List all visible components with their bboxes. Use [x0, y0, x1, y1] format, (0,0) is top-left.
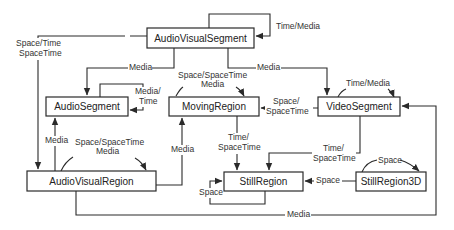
edge-label-line2: SpaceTime — [266, 106, 309, 116]
node-videosegment: VideoSegment — [318, 97, 400, 116]
node-label: MovingRegion — [182, 101, 246, 112]
edge-label-line2: Media — [96, 146, 119, 156]
node-label: AudioVisualRegion — [49, 176, 133, 187]
node-label: StillRegion3D — [361, 176, 422, 187]
edge-label: Space — [316, 175, 340, 185]
edge-label-line2: SpaceTime — [313, 153, 356, 163]
edge-label-line2: SpaceTime — [19, 48, 62, 58]
edge-label-line1: Space/ — [273, 96, 300, 106]
edge-label-line1: Space/Time — [16, 38, 61, 48]
edge-label-line2: SpaceTime — [218, 142, 261, 152]
edge-stillregion3d-to-stillregion: Space — [305, 175, 356, 186]
edge-label: Media — [287, 209, 310, 219]
edge-label-line1: Time/ — [323, 143, 345, 153]
edge-videosegment-self: Time/Media — [338, 78, 394, 97]
edge-movingregion-self: Space/SpaceTime Media — [176, 70, 247, 96]
node-label: VideoSegment — [326, 101, 392, 112]
edge-label: Space — [378, 155, 402, 165]
edge-label-line1: Media/ — [135, 86, 161, 96]
node-audiovisualregion: AudioVisualRegion — [27, 171, 156, 191]
edge-label-line2: Time — [139, 96, 158, 106]
edge-stillregion3d-self: Space — [362, 155, 419, 172]
edge-avr-to-audiosegment: Media — [44, 118, 68, 171]
edge-avr-self: Space/SpaceTime Media — [61, 137, 146, 171]
edge-label: Time/Media — [276, 21, 320, 31]
edge-videosegment-to-stillregion: Time/ SpaceTime — [269, 116, 360, 170]
edge-label: Media — [129, 62, 152, 72]
edge-avr-to-movingregion: Media — [156, 118, 194, 185]
edge-label: Space — [199, 187, 223, 197]
node-stillregion: StillRegion — [224, 172, 303, 191]
edge-movingregion-to-stillregion: Time/ SpaceTime — [217, 116, 261, 170]
edge-label: Media — [45, 135, 68, 145]
node-movingregion: MovingRegion — [169, 97, 259, 116]
edge-label-line2: Media — [201, 79, 224, 89]
node-audiosegment: AudioSegment — [46, 97, 128, 116]
node-label: AudioSegment — [54, 101, 120, 112]
edge-label: Time/Media — [346, 78, 390, 88]
node-stillregion3d: StillRegion3D — [356, 172, 426, 191]
edge-videosegment-to-movingregion: Space/ SpaceTime — [261, 96, 318, 117]
node-label: AudioVisualSegment — [154, 33, 247, 44]
edge-label-line1: Time/ — [228, 132, 250, 142]
edge-label: Media — [171, 144, 194, 154]
decomposition-diagram: Time/Media Space/Time SpaceTime Media Me… — [0, 0, 454, 230]
edge-label: Media — [257, 62, 280, 72]
node-label: StillRegion — [240, 176, 288, 187]
node-audiovisualsegment: AudioVisualSegment — [147, 28, 254, 48]
